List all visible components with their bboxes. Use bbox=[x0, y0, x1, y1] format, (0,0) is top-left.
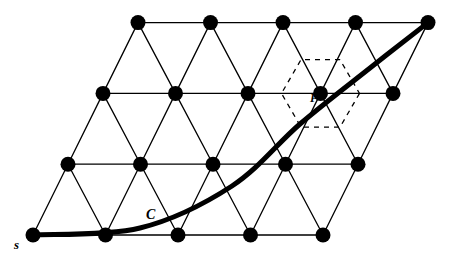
lattice-vertex bbox=[168, 86, 183, 101]
label-lattice-point-p: P bbox=[310, 92, 317, 104]
lattice-vertex bbox=[351, 157, 366, 172]
lattice-vertex bbox=[421, 15, 436, 30]
lattice-vertex bbox=[278, 157, 293, 172]
lattice-vertex bbox=[96, 86, 111, 101]
figure-background bbox=[0, 0, 461, 262]
lattice-vertex bbox=[26, 228, 41, 243]
lattice-vertex bbox=[61, 157, 76, 172]
lattice-vertex bbox=[206, 157, 221, 172]
label-curve-c: C bbox=[146, 208, 155, 222]
lattice-vertex bbox=[131, 15, 146, 30]
lattice-vertex bbox=[276, 15, 291, 30]
lattice-vertex bbox=[203, 15, 218, 30]
lattice-vertex bbox=[386, 86, 401, 101]
lattice-diagram bbox=[0, 0, 461, 262]
lattice-vertex bbox=[133, 157, 148, 172]
lattice-vertex bbox=[171, 228, 186, 243]
lattice-figure: s P C bbox=[0, 0, 461, 262]
lattice-vertex bbox=[243, 228, 258, 243]
lattice-vertex bbox=[98, 228, 113, 243]
label-start-vertex: s bbox=[14, 238, 19, 251]
lattice-vertex bbox=[316, 228, 331, 243]
lattice-vertex bbox=[241, 86, 256, 101]
lattice-vertex bbox=[348, 15, 363, 30]
